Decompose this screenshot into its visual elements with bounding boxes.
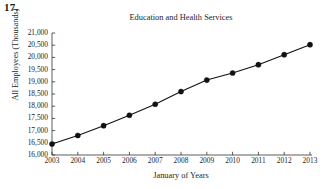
y-axis-ticks <box>52 33 55 155</box>
data-point-marker <box>178 89 183 94</box>
data-point-marker <box>127 113 132 118</box>
data-series-line <box>52 45 310 144</box>
figure-page: 17. Education and Health Services All Em… <box>0 0 329 189</box>
data-point-marker <box>75 133 80 138</box>
data-point-marker <box>230 70 235 75</box>
data-point-marker <box>282 52 287 57</box>
x-axis-ticks <box>52 152 310 155</box>
data-point-marker <box>101 123 106 128</box>
data-point-marker <box>256 62 261 67</box>
data-point-marker <box>153 102 158 107</box>
data-point-marker <box>204 77 209 82</box>
line-chart-plot <box>0 0 329 189</box>
data-point-marker <box>49 141 54 146</box>
data-point-marker <box>307 42 312 47</box>
